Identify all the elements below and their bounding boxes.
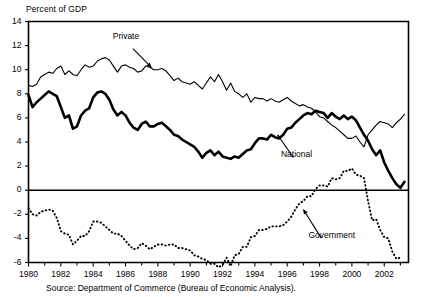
chart-figure: Percent of GDP 14121086420-2-4-6 1980198…: [0, 0, 423, 297]
y-tick-label: 14: [2, 16, 22, 26]
series-line-private: [29, 58, 405, 147]
annotation-label-private: Private: [113, 31, 139, 41]
annotation-label-national: National: [281, 149, 312, 159]
y-tick-label: -2: [2, 208, 22, 218]
x-tick-label: 2002: [369, 269, 399, 279]
y-tick-label: 4: [2, 136, 22, 146]
y-tick-label: 12: [2, 40, 22, 50]
x-tick-label: 1996: [272, 269, 302, 279]
y-tick-label: -4: [2, 232, 22, 242]
x-tick-label: 1998: [305, 269, 335, 279]
x-tick-label: 1992: [208, 269, 238, 279]
y-tick-label: 0: [2, 184, 22, 194]
source-note: Source: Department of Commerce (Bureau o…: [46, 283, 296, 293]
x-tick-label: 1988: [143, 269, 173, 279]
chart-plot-area: [0, 0, 423, 297]
x-tick-label: 1984: [78, 269, 108, 279]
y-tick-label: 2: [2, 160, 22, 170]
x-tick-label: 1980: [14, 269, 44, 279]
series-line-government: [29, 169, 401, 268]
x-tick-label: 1990: [175, 269, 205, 279]
y-tick-label: 6: [2, 112, 22, 122]
x-tick-label: 1982: [46, 269, 76, 279]
x-tick-label: 1994: [240, 269, 270, 279]
y-tick-label: 8: [2, 88, 22, 98]
y-tick-label: 10: [2, 64, 22, 74]
x-tick-label: 1986: [111, 269, 141, 279]
x-tick-label: 2000: [337, 269, 367, 279]
axis-frame: [29, 22, 409, 263]
y-tick-label: -6: [2, 257, 22, 267]
annotation-label-government: Government: [308, 230, 355, 240]
series-line-national: [29, 91, 405, 187]
